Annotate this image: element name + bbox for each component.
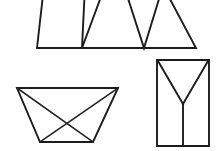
figure-canvas xyxy=(0,0,223,151)
line-drawing-svg xyxy=(0,0,223,151)
